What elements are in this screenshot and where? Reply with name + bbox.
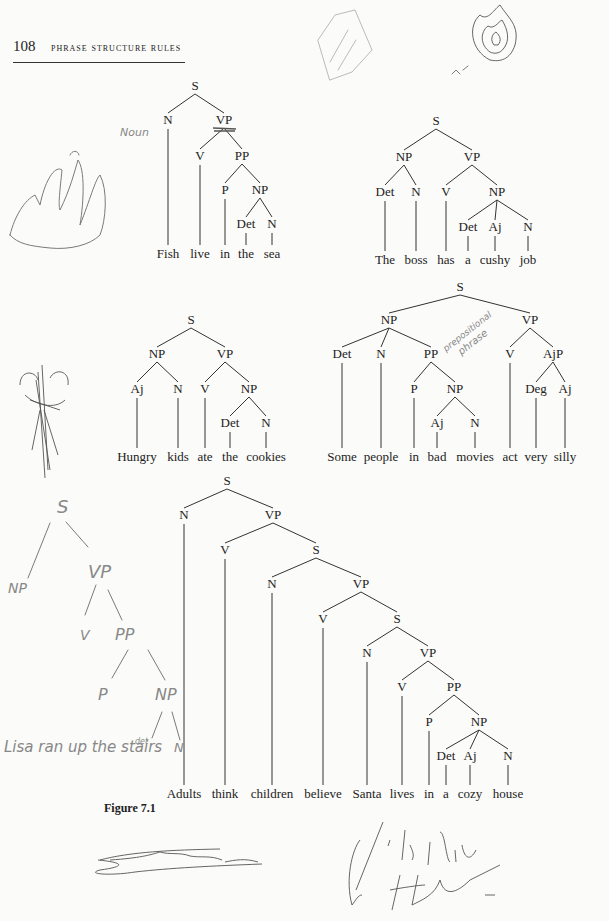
tree-node-np: NP	[489, 184, 506, 199]
tree-node-det: Det	[333, 346, 352, 361]
tree-edge	[157, 362, 178, 382]
tree-node-np: NP	[471, 714, 488, 729]
hw-noun-note: Noun	[120, 126, 149, 139]
tree-edge	[230, 397, 249, 416]
tree-edge	[260, 198, 272, 217]
tree-node-vp: VP	[420, 645, 437, 660]
tree-node-vp: VP	[216, 112, 233, 127]
hw-node-pp: PP	[115, 625, 135, 644]
tree-edge	[157, 328, 191, 347]
tree-edge	[195, 94, 224, 113]
tree-node-v: V	[441, 184, 451, 199]
tree-node-v: V	[318, 611, 328, 626]
tree-node-np: NP	[149, 346, 166, 361]
tree-node-deg: Deg	[525, 381, 547, 396]
tree-edge	[389, 328, 431, 347]
hw-node-vp: VP	[88, 561, 111, 582]
tree-word: Santa	[353, 786, 382, 801]
tree-edge	[323, 592, 361, 612]
tree-node-s: S	[312, 542, 319, 557]
tree-node-v: V	[195, 148, 205, 163]
tree-node-n: N	[411, 184, 421, 199]
tree-edge	[397, 627, 428, 646]
tree-node-v: V	[397, 679, 407, 694]
tree-edge	[468, 200, 497, 220]
tree-edge	[389, 295, 460, 313]
tree-node-aj: Aj	[131, 381, 144, 396]
tree-node-det: Det	[221, 415, 240, 430]
tree-node-v: V	[505, 346, 515, 361]
tree-edge	[495, 200, 497, 220]
tree-edge	[191, 328, 225, 347]
tree-node-s: S	[432, 113, 439, 128]
doodle-cross-scribble	[20, 365, 68, 478]
tree-node-n: N	[376, 346, 386, 361]
tree-word: cushy	[480, 252, 511, 267]
tree-edge	[510, 328, 530, 347]
tree-word: children	[251, 786, 294, 801]
tree-node-p: P	[425, 714, 432, 729]
tree-node-p: P	[221, 182, 228, 197]
hw-node-np: NP	[8, 580, 27, 596]
tree-node-np: NP	[241, 381, 258, 396]
tree-word: very	[524, 449, 548, 464]
tree-word: in	[220, 246, 231, 261]
tree-node-s: S	[187, 312, 194, 327]
tree-edge	[429, 695, 454, 715]
tree-node-n: N	[523, 219, 533, 234]
tree-edge	[225, 362, 249, 382]
tree-word: Some	[327, 449, 357, 464]
tree-boss: SNPVPDetNVNPDetAjNThebosshasacushyjob	[375, 113, 536, 267]
tree-edge	[205, 362, 225, 382]
tree-node-p: P	[410, 381, 417, 396]
doodle-fish-scribble	[10, 151, 105, 248]
tree-edge	[249, 397, 266, 416]
tree-word: in	[409, 449, 420, 464]
syntax-trees: SNVPVPPPNPDetNFishliveintheseaSNPVPDetNV…	[117, 78, 577, 801]
hw-node-p: P	[98, 685, 108, 704]
tree-node-n: N	[267, 216, 277, 231]
hw-node-np2: NP	[155, 685, 177, 704]
tree-word: cookies	[246, 449, 286, 464]
tree-edge	[168, 94, 195, 113]
tree-node-det: Det	[237, 216, 256, 231]
tree-edge	[530, 328, 553, 347]
tree-santa: SNVPVSNVPVSNVPVPPPNPDetAjNAdultsthinkchi…	[167, 473, 524, 801]
tree-edge	[553, 362, 565, 382]
tree-edge	[242, 164, 260, 183]
tree-node-n: N	[261, 415, 271, 430]
tree-node-n: N	[362, 645, 372, 660]
tree-edge	[414, 362, 431, 382]
tree-edge	[184, 489, 227, 508]
tree-word: believe	[304, 786, 342, 801]
tree-node-aj: Aj	[489, 219, 502, 234]
tree-node-vp: VP	[217, 346, 234, 361]
tree-word: house	[493, 786, 524, 801]
tree-node-np: NP	[252, 182, 269, 197]
tree-edge	[428, 661, 454, 680]
tree-node-n: N	[470, 415, 480, 430]
tree-node-v: V	[200, 381, 210, 396]
tree-node-s: S	[223, 473, 230, 488]
hw-node-v: V	[80, 627, 91, 643]
tree-word: cozy	[458, 786, 483, 801]
hw-node-n: N	[174, 740, 184, 755]
tree-node-pp: PP	[235, 148, 249, 163]
tree-word: people	[364, 449, 399, 464]
doodle-top-center	[318, 10, 372, 80]
tree-edge	[225, 523, 273, 543]
tree-word: the	[222, 449, 238, 464]
tree-node-vp: VP	[464, 149, 481, 164]
tree-word: a	[465, 252, 471, 267]
tree-edge	[455, 397, 475, 416]
tree-word: job	[519, 252, 537, 267]
tree-word: Hungry	[117, 449, 157, 464]
tree-edge	[316, 558, 361, 577]
tree-edge	[404, 129, 436, 150]
tree-word: Adults	[167, 786, 202, 801]
tree-node-pp: PP	[424, 346, 438, 361]
tree-edge	[137, 362, 157, 382]
tree-movies: SNPVPDetNPPVAjPPNPDegAjAjNSomepeopleinba…	[327, 279, 577, 464]
tree-edge	[431, 362, 455, 382]
tree-node-aj: Aj	[559, 381, 572, 396]
